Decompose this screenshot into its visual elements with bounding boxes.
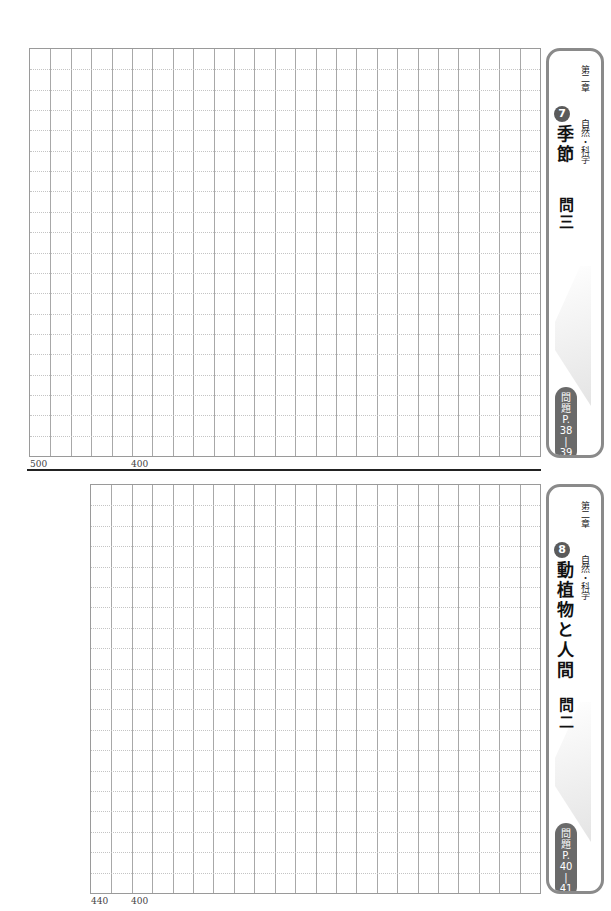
tab-fade-decoration (555, 266, 591, 406)
grid-row-guide (30, 232, 540, 233)
grid-row-guide (91, 648, 540, 649)
grid-row-guide (30, 151, 540, 152)
unit-number-badge: 8 (554, 542, 570, 558)
grid-row-guide (91, 546, 540, 547)
grid-row-guide (30, 314, 540, 315)
chapter-tab-top: 第二章 7 自然・科学 季節 問三 問 題 P. 38 | 39 (546, 48, 604, 458)
page-ref-5: 41 (555, 883, 577, 894)
page-reference-badge: 問 題 P. 40 | 41 (555, 823, 577, 894)
chapter-tab-bottom: 第二章 8 自然・科学 動植物と人間 問二 問 題 P. 40 | 41 (546, 484, 604, 894)
grid-row-guide (91, 832, 540, 833)
page-ref-1: 題 (555, 839, 577, 850)
grid-row-guide (91, 526, 540, 527)
char-counter-400: 400 (131, 459, 148, 469)
writing-grid-bottom (90, 484, 541, 894)
grid-row-guide (91, 709, 540, 710)
sheet-divider (27, 469, 541, 471)
page-ref-0: 問 (555, 828, 577, 839)
page-ref-0: 問 (555, 392, 577, 403)
char-counter-440: 440 (91, 896, 108, 906)
grid-row-guide (30, 293, 540, 294)
page-reference-badge: 問 題 P. 38 | 39 (555, 387, 577, 458)
grid-row-guide (91, 689, 540, 690)
page-ref-3: 38 (555, 425, 577, 436)
page-ref-5: 39 (555, 447, 577, 458)
page-ref-2: P. (555, 414, 577, 425)
grid-row-guide (91, 505, 540, 506)
grid-row-guide (91, 669, 540, 670)
subject-label: 自然・科学 (579, 119, 592, 164)
grid-row-guide (30, 253, 540, 254)
grid-row-guide (91, 730, 540, 731)
grid-row-guide (91, 873, 540, 874)
unit-number-badge: 7 (554, 106, 570, 122)
page-ref-1: 題 (555, 403, 577, 414)
grid-row-guide (30, 354, 540, 355)
grid-row-guide (91, 750, 540, 751)
question-number: 問二 (555, 697, 576, 731)
page-ref-2: P. (555, 850, 577, 861)
grid-row-guide (30, 415, 540, 416)
grid-row-guide (30, 191, 540, 192)
page-ref-4: | (555, 436, 577, 447)
grid-row-guide (30, 110, 540, 111)
grid-row-guide (91, 567, 540, 568)
grid-row-guide (91, 791, 540, 792)
char-counter-500: 500 (30, 459, 47, 469)
grid-row-guide (30, 90, 540, 91)
grid-row-guide (30, 334, 540, 335)
page-ref-3: 40 (555, 861, 577, 872)
grid-row-guide (91, 771, 540, 772)
chapter-label: 第二章 (579, 501, 592, 528)
grid-row-guide (30, 436, 540, 437)
grid-row-guide (30, 69, 540, 70)
grid-row-guide (30, 375, 540, 376)
grid-row-guide (91, 587, 540, 588)
chapter-label: 第二章 (579, 65, 592, 92)
subject-label: 自然・科学 (579, 555, 592, 600)
grid-row-guide (91, 811, 540, 812)
question-number: 問三 (555, 197, 576, 231)
grid-row-guide (30, 171, 540, 172)
char-counter-400-bottom: 400 (131, 896, 148, 906)
grid-row-guide (30, 130, 540, 131)
writing-grid-top (29, 48, 541, 457)
grid-row-guide (30, 395, 540, 396)
grid-row-guide (30, 273, 540, 274)
grid-row-guide (91, 628, 540, 629)
page-ref-4: | (555, 872, 577, 883)
unit-title: 季節 (552, 125, 577, 165)
grid-row-guide (91, 852, 540, 853)
grid-row-guide (30, 212, 540, 213)
grid-row-guide (91, 607, 540, 608)
unit-title: 動植物と人間 (552, 561, 577, 681)
